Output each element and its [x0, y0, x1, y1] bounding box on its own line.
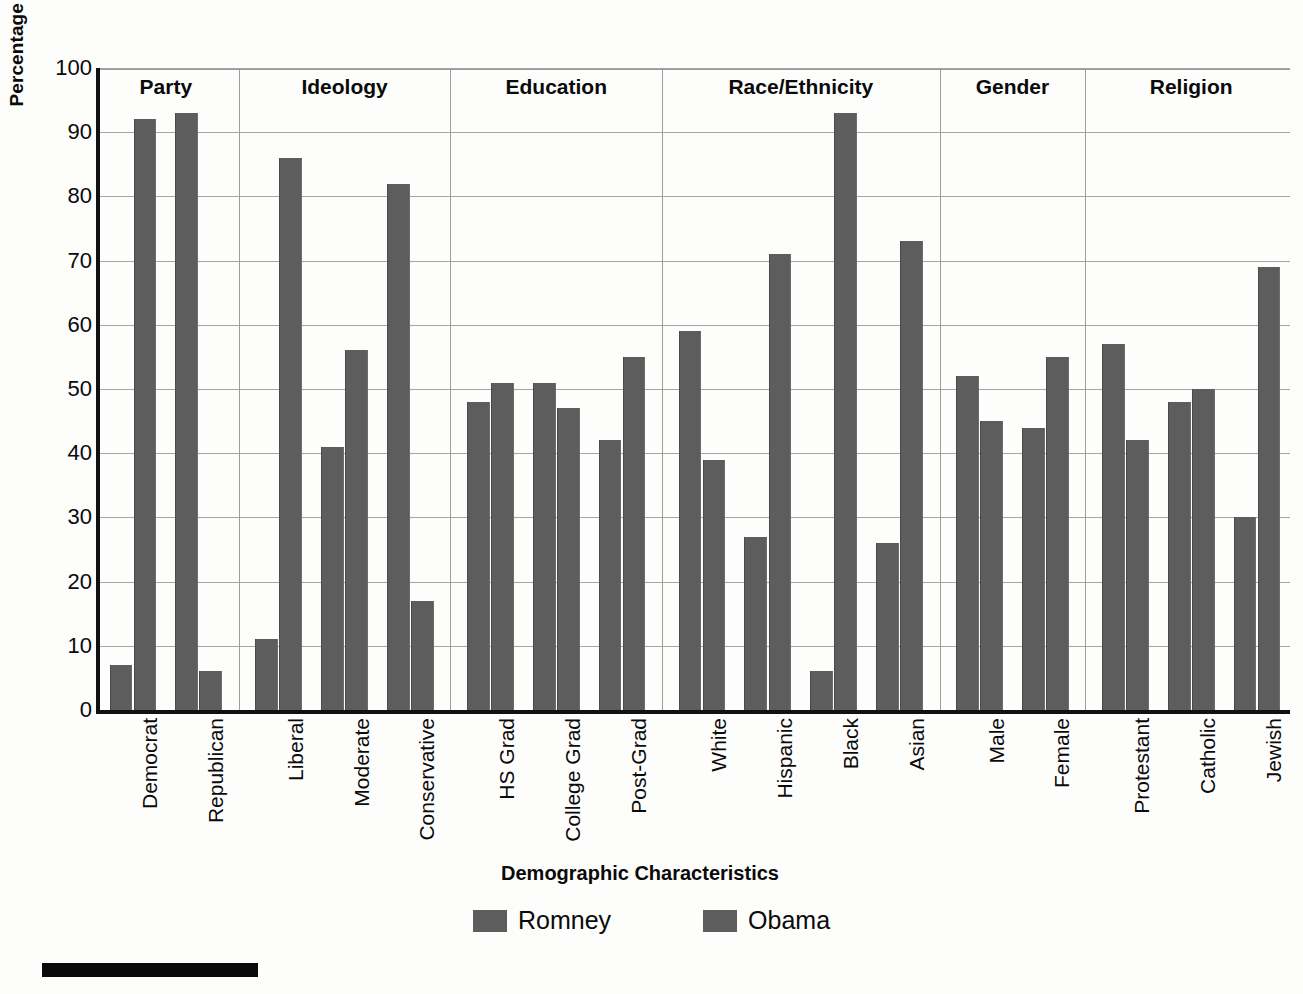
x-axis-label-female: Female — [1051, 718, 1072, 788]
group-separator — [940, 68, 941, 710]
chart-legend: RomneyObama — [0, 908, 1303, 933]
bar-obama-white — [703, 460, 726, 710]
bar-obama-liberal — [279, 158, 302, 710]
y-axis-tick-label: 60 — [40, 314, 92, 336]
x-axis-label-male: Male — [986, 718, 1007, 764]
bar-romney-conservative — [387, 184, 410, 710]
x-axis-label-jewish: Jewish — [1263, 718, 1284, 782]
y-axis-tick-label: 0 — [40, 699, 92, 721]
bar-romney-moderate — [321, 447, 344, 710]
group-header-religion: Religion — [1092, 72, 1290, 102]
bar-romney-liberal — [255, 639, 278, 710]
group-header-race-ethnicity: Race/Ethnicity — [669, 72, 933, 102]
bar-romney-hispanic — [744, 537, 767, 710]
x-axis-label-moderate: Moderate — [351, 718, 372, 807]
y-axis-tick-label: 90 — [40, 121, 92, 143]
plot-area: PartyIdeologyEducationRace/EthnicityGend… — [96, 68, 1290, 714]
group-separator — [662, 68, 663, 710]
x-axis-label-protestant: Protestant — [1131, 718, 1152, 814]
bar-obama-hs-grad — [491, 383, 514, 710]
bar-obama-protestant — [1126, 440, 1149, 710]
group-header-education: Education — [457, 72, 655, 102]
x-axis-label-conservative: Conservative — [416, 718, 437, 841]
group-header-party: Party — [100, 72, 232, 102]
group-separator — [239, 68, 240, 710]
bar-obama-black — [834, 113, 857, 710]
legend-entry-obama: Obama — [703, 908, 830, 933]
bar-romney-college-grad — [533, 383, 556, 710]
bar-romney-catholic — [1168, 402, 1191, 710]
y-axis-tick-label: 80 — [40, 185, 92, 207]
bar-romney-republican — [175, 113, 198, 710]
y-axis-tick-label: 70 — [40, 250, 92, 272]
bar-romney-hs-grad — [467, 402, 490, 710]
bar-obama-male — [980, 421, 1003, 710]
y-axis-tick-label: 40 — [40, 442, 92, 464]
bar-romney-black — [810, 671, 833, 710]
y-axis-title: Percentage of Total Votes — [6, 0, 36, 210]
x-axis-label-white: White — [708, 718, 729, 772]
bar-romney-male — [956, 376, 979, 710]
bar-obama-moderate — [345, 350, 368, 710]
bar-romney-democrat — [110, 665, 133, 710]
legend-swatch-romney — [473, 910, 507, 932]
bar-obama-post-grad — [623, 357, 646, 710]
x-axis-label-democrat: Democrat — [139, 718, 160, 809]
y-axis-tick-label: 20 — [40, 571, 92, 593]
bar-romney-post-grad — [599, 440, 622, 710]
x-axis-label-asian: Asian — [906, 718, 927, 771]
bar-romney-white — [679, 331, 702, 710]
bar-romney-asian — [876, 543, 899, 710]
plot-inner: PartyIdeologyEducationRace/EthnicityGend… — [100, 68, 1290, 710]
bar-obama-catholic — [1192, 389, 1215, 710]
grouped-bar-chart: Percentage of Total Votes 10090807060504… — [0, 0, 1303, 994]
group-separator — [450, 68, 451, 710]
bar-obama-conservative — [411, 601, 434, 710]
bar-obama-college-grad — [557, 408, 580, 710]
legend-label-romney: Romney — [518, 908, 611, 933]
bar-obama-hispanic — [769, 254, 792, 710]
x-axis-label-hispanic: Hispanic — [774, 718, 795, 799]
x-axis-label-black: Black — [840, 718, 861, 769]
group-separator — [1085, 68, 1086, 710]
group-header-gender: Gender — [947, 72, 1079, 102]
x-axis-label-post-grad: Post-Grad — [628, 718, 649, 814]
x-axis-label-republican: Republican — [205, 718, 226, 823]
legend-label-obama: Obama — [748, 908, 830, 933]
bar-obama-democrat — [134, 119, 157, 710]
bar-romney-protestant — [1102, 344, 1125, 710]
y-axis-tick-label: 100 — [40, 57, 92, 79]
legend-swatch-obama — [703, 910, 737, 932]
y-axis-tick-label: 10 — [40, 635, 92, 657]
bar-obama-female — [1046, 357, 1069, 710]
group-header-ideology: Ideology — [246, 72, 444, 102]
x-axis-label-hs-grad: HS Grad — [496, 718, 517, 800]
x-axis-label-college-grad: College Grad — [562, 718, 583, 842]
x-axis-label-catholic: Catholic — [1197, 718, 1218, 794]
bar-romney-jewish — [1234, 517, 1257, 710]
bar-obama-asian — [900, 241, 923, 710]
bar-obama-republican — [199, 671, 222, 710]
gridline — [100, 132, 1290, 133]
y-axis-tick-labels: 1009080706050403020100 — [40, 0, 92, 994]
legend-entry-romney: Romney — [473, 908, 611, 933]
bar-romney-female — [1022, 428, 1045, 710]
bar-obama-jewish — [1258, 267, 1281, 710]
gridline — [100, 68, 1290, 69]
x-axis-label-liberal: Liberal — [285, 718, 306, 781]
redaction-bar — [42, 963, 258, 977]
y-axis-tick-label: 50 — [40, 378, 92, 400]
x-axis-title: Demographic Characteristics — [380, 862, 900, 885]
y-axis-tick-label: 30 — [40, 506, 92, 528]
